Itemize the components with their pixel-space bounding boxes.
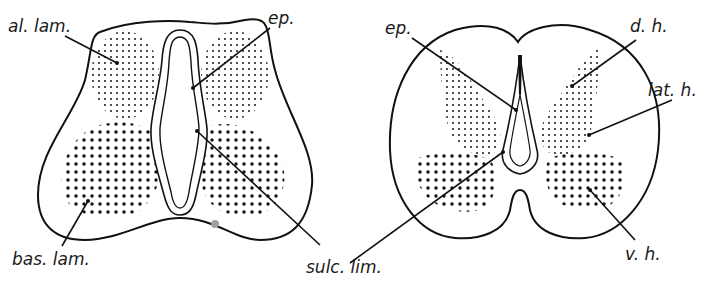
grey-spot xyxy=(211,220,219,228)
basal-lamina-right xyxy=(197,124,284,217)
ventral-horn-right xyxy=(545,152,625,210)
label-lat-h: lat. h. xyxy=(648,80,697,100)
leader-d-h xyxy=(572,40,636,86)
label-sulc-lim: sulc. lim. xyxy=(306,257,382,277)
alar-lamina-right xyxy=(201,31,269,119)
right-section: ep. d. h. lat. h. v. h. xyxy=(350,16,697,264)
ventral-horn-left xyxy=(416,152,497,211)
gray-matter-dorsal-left xyxy=(440,50,500,155)
left-section: al. lam. ep. bas. lam. sulc. lim. xyxy=(8,8,382,277)
basal-lamina-left xyxy=(62,122,163,218)
gray-matter-dorsal-right xyxy=(540,48,598,155)
label-v-h: v. h. xyxy=(625,244,661,264)
label-ep-left: ep. xyxy=(268,8,295,28)
spinal-cord-diagram: al. lam. ep. bas. lam. sulc. lim. ep. d.… xyxy=(0,0,712,286)
label-al-lam: al. lam. xyxy=(8,16,71,36)
label-bas-lam: bas. lam. xyxy=(12,249,90,269)
alar-lamina-left xyxy=(91,31,159,119)
label-d-h: d. h. xyxy=(630,16,668,36)
label-ep-right: ep. xyxy=(385,18,412,38)
